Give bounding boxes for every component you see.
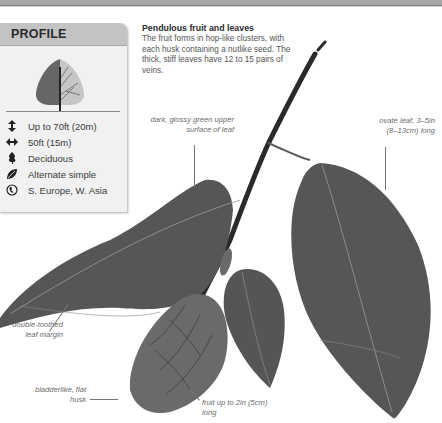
caption-title: Pendulous fruit and leaves [142, 23, 302, 34]
fact-type-text: Deciduous [28, 153, 73, 164]
fact-height-text: Up to 70ft (20m) [28, 121, 97, 132]
profile-facts: Up to 70ft (20m) 50ft (15m) Deciduous Al… [6, 118, 124, 198]
fact-range-text: S. Europe, W. Asia [28, 185, 107, 196]
caption-body: The fruit forms in hop-like clusters, wi… [142, 34, 302, 76]
globe-icon [6, 184, 18, 196]
tree-silhouette-icon [30, 57, 90, 111]
profile-title: PROFILE [11, 27, 67, 41]
fact-spread-text: 50ft (15m) [28, 137, 71, 148]
caption-block: Pendulous fruit and leaves The fruit for… [142, 23, 302, 76]
profile-divider [6, 111, 120, 112]
annotation-ovate-leaf: ovate leaf, 3–5in (8–13cm) long [370, 116, 435, 135]
leader-line-husk [90, 399, 118, 400]
deciduous-leaf-icon [6, 152, 18, 164]
leaf-icon [6, 168, 18, 180]
height-arrow-icon [6, 120, 18, 132]
width-arrow-icon [6, 136, 18, 148]
annotation-fruit: fruit up to 2in (5cm) long [202, 398, 272, 417]
leader-line-upper-surface [194, 145, 195, 187]
profile-header: PROFILE [0, 23, 127, 46]
fact-type: Deciduous [6, 150, 124, 166]
leader-line-ovate-leaf [385, 147, 386, 190]
fact-range: S. Europe, W. Asia [6, 182, 124, 198]
profile-panel: PROFILE Up to 70ft (20m) 50ft (15m) Deci… [0, 23, 128, 213]
annotation-husk: bladderlike, flat husk [30, 385, 86, 404]
fact-leaf: Alternate simple [6, 166, 124, 182]
annotation-upper-surface: dark, glossy green upper surface of leaf [150, 115, 234, 134]
fact-leaf-text: Alternate simple [28, 169, 96, 180]
fact-height: Up to 70ft (20m) [6, 118, 124, 134]
fact-spread: 50ft (15m) [6, 134, 124, 150]
